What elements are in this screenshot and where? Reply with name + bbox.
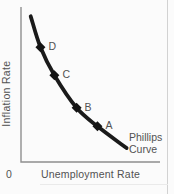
curve-point-label-A: A [106, 119, 113, 131]
curve-annotation-line2: Curve [129, 144, 162, 156]
page-edge-line [167, 0, 168, 194]
curve-annotation-line1: Phillips [129, 132, 162, 144]
curve-annotation: Phillips Curve [129, 132, 162, 155]
chart-panel: DCBA Inflation Rate Unemployment Rate 0 … [0, 0, 174, 194]
scan-smudge-line [40, 184, 168, 185]
origin-label: 0 [6, 169, 12, 181]
curve-point-label-C: C [62, 68, 70, 80]
x-axis-label: Unemployment Rate [21, 169, 160, 181]
curve-point-label-D: D [49, 40, 57, 52]
y-axis-label: Inflation Rate [1, 43, 13, 145]
phillips-curve-chart: DCBA [0, 0, 174, 194]
curve-point-label-B: B [85, 101, 92, 113]
